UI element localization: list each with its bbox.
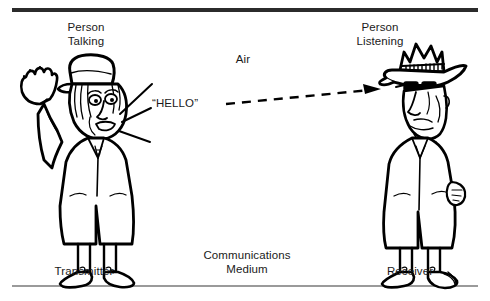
label-transmitter: Transmitter [28,264,140,278]
label-hello-message: “HELLO” [152,96,222,110]
hand-icon [447,182,465,205]
label-person-listening: Person Listening [330,20,430,48]
wide-brim-hat-icon [379,44,466,87]
label-communications-medium: Communications Medium [182,248,312,276]
communication-system-figure: Person Talking Person Listening Air “HEL… [0,0,490,301]
label-receiver: Receiver [358,264,462,278]
label-air: Air [208,52,278,66]
label-person-talking: Person Talking [36,20,136,48]
head-icon [403,86,449,144]
